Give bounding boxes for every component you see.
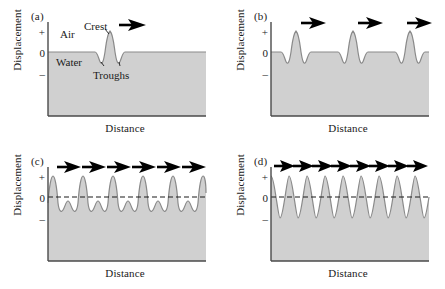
panel-c-plot xyxy=(0,145,222,289)
panel-a-crest-label: Crest xyxy=(84,20,107,32)
panel-d: (d) Displacement Distance + 0 – xyxy=(223,145,445,289)
panel-d-propagation-arrow-1 xyxy=(274,160,295,172)
panel-b-water-fill xyxy=(271,31,429,116)
panel-c-propagation-arrow-3 xyxy=(107,161,131,173)
panel-d-water-fill xyxy=(271,176,429,261)
panel-d-propagation-arrow-3 xyxy=(312,160,333,172)
panel-b-propagation-arrow-1 xyxy=(301,17,326,29)
panel-c-propagation-arrow-6 xyxy=(182,161,206,173)
panel-c-water-fill xyxy=(48,176,206,261)
panel-c-propagation-arrow-5 xyxy=(157,161,181,173)
panel-a-troughs-label: Troughs xyxy=(93,69,129,81)
panel-a: (a) Displacement Distance + 0 – Ai xyxy=(0,0,222,144)
panel-d-propagation-arrow-5 xyxy=(350,160,371,172)
panel-a-air-label: Air xyxy=(60,28,75,40)
panel-d-plot xyxy=(223,145,445,289)
panel-c-propagation-arrow-1 xyxy=(57,161,81,173)
panel-d-propagation-arrow-2 xyxy=(293,160,314,172)
panel-c-propagation-arrow-2 xyxy=(82,161,106,173)
wave-progression-figure: (a) Displacement Distance + 0 – Ai xyxy=(0,0,445,289)
panel-d-propagation-arrow-8 xyxy=(407,160,428,172)
panel-c: (c) Displacement Distance + 0 – xyxy=(0,145,222,289)
panel-d-propagation-arrow-4 xyxy=(331,160,352,172)
panel-d-propagation-arrow-6 xyxy=(369,160,390,172)
panel-d-propagation-arrow-7 xyxy=(388,160,409,172)
panel-b-propagation-arrow-2 xyxy=(358,17,383,29)
panel-b: (b) Displacement Distance + 0 – xyxy=(223,0,445,144)
panel-a-water-label: Water xyxy=(56,56,82,68)
panel-b-propagation-arrow-3 xyxy=(407,17,432,29)
panel-c-propagation-arrow-4 xyxy=(132,161,156,173)
panel-b-plot xyxy=(223,0,445,144)
panel-a-propagation-arrow xyxy=(119,19,146,31)
